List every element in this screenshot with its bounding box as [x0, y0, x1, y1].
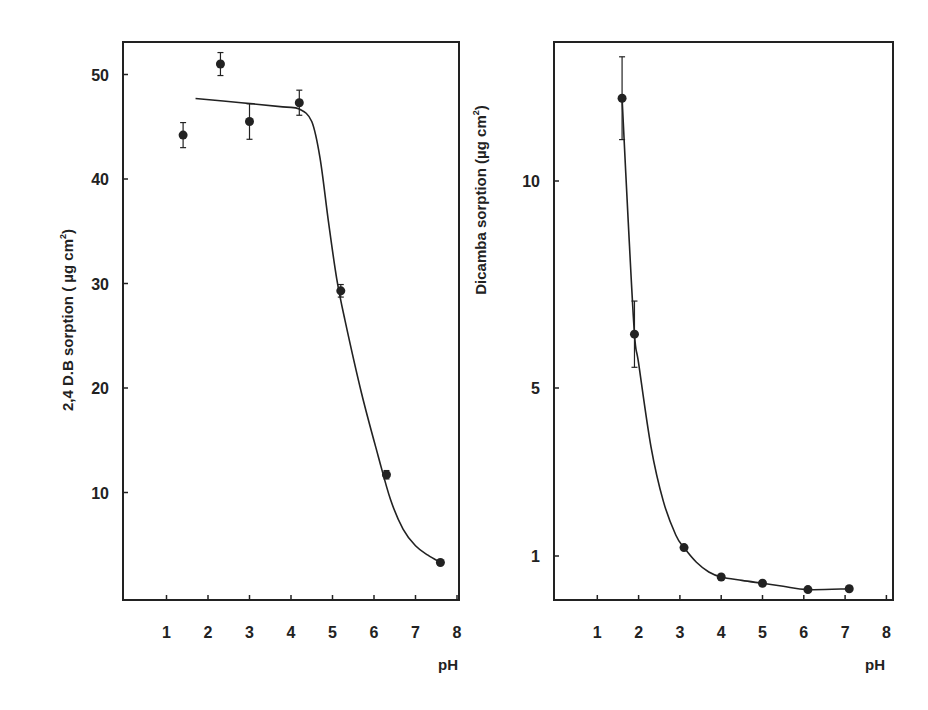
- data-point: [845, 584, 854, 593]
- marker-dot: [618, 94, 627, 103]
- figure: 1020304050 12345678 2,4 D.B sorption ( µ…: [0, 0, 928, 710]
- x-tick-label: 4: [287, 624, 296, 641]
- marker-dot: [717, 573, 726, 582]
- data-point: [179, 123, 188, 148]
- data-points: [618, 57, 854, 594]
- data-point: [717, 573, 726, 582]
- y-tick-label: 10: [91, 485, 109, 502]
- y-tick-label: 10: [522, 173, 540, 190]
- data-point: [758, 579, 767, 588]
- x-tick-label: 6: [370, 624, 379, 641]
- marker-dot: [758, 579, 767, 588]
- x-tick-label: 5: [328, 624, 337, 641]
- x-axis-label: pH: [438, 656, 458, 673]
- y-axis-label: Dicamba sorption (µg cm2): [471, 105, 489, 295]
- data-point: [618, 57, 627, 140]
- marker-dot: [295, 98, 304, 107]
- marker-dot: [845, 584, 854, 593]
- x-tick-label: 4: [717, 624, 726, 641]
- x-tick-label: 3: [245, 624, 254, 641]
- chart-left-2-4-db: 1020304050 12345678 2,4 D.B sorption ( µ…: [58, 42, 462, 673]
- x-tick-label: 8: [453, 624, 462, 641]
- data-point: [216, 53, 225, 76]
- x-tick-label: 1: [162, 624, 171, 641]
- x-tick-label: 8: [882, 624, 891, 641]
- fit-curve: [196, 99, 441, 563]
- x-tick-label: 7: [841, 624, 850, 641]
- fit-curve: [622, 98, 849, 589]
- data-point: [436, 558, 445, 567]
- x-tick-label: 3: [675, 624, 684, 641]
- marker-dot: [436, 558, 445, 567]
- marker-dot: [630, 330, 639, 339]
- x-tick-label: 5: [758, 624, 767, 641]
- data-point: [803, 585, 812, 594]
- marker-dot: [216, 60, 225, 69]
- x-tick-label: 2: [634, 624, 643, 641]
- data-points: [179, 53, 445, 567]
- data-point: [680, 543, 689, 552]
- plot-frame: [123, 42, 459, 600]
- marker-dot: [382, 470, 391, 479]
- marker-dot: [245, 117, 254, 126]
- plot-frame: [554, 42, 893, 600]
- y-tick-label: 1: [531, 548, 540, 565]
- marker-dot: [680, 543, 689, 552]
- x-axis-label: pH: [865, 656, 885, 673]
- y-axis-label: 2,4 D.B sorption ( µg cm2): [58, 229, 76, 411]
- x-tick-label: 7: [411, 624, 420, 641]
- y-tick-label: 20: [91, 380, 109, 397]
- y-tick-label: 40: [91, 171, 109, 188]
- marker-dot: [179, 131, 188, 140]
- x-tick-label: 6: [799, 624, 808, 641]
- x-tick-label: 1: [593, 624, 602, 641]
- y-tick-label: 30: [91, 276, 109, 293]
- x-axis-ticks: 12345678: [162, 595, 462, 641]
- data-point: [245, 104, 254, 140]
- marker-dot: [336, 286, 345, 295]
- x-axis-ticks: 12345678: [593, 595, 891, 641]
- x-tick-label: 2: [204, 624, 213, 641]
- chart-right-dicamba: 1510 12345678 Dicamba sorption (µg cm2) …: [471, 42, 893, 673]
- marker-dot: [803, 585, 812, 594]
- y-tick-label: 50: [91, 67, 109, 84]
- y-tick-label: 5: [531, 380, 540, 397]
- data-point: [382, 470, 391, 479]
